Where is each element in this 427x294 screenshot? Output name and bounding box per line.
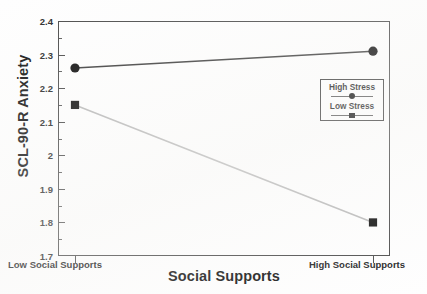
- x-axis-title: Social Supports: [58, 268, 390, 284]
- square-marker-icon: [349, 113, 355, 119]
- legend-sample-high-stress: [321, 92, 383, 101]
- y-tick-label-2.2: 2.2: [19, 83, 53, 94]
- legend-sample-low-stress: [321, 111, 383, 120]
- y-tick-label-1.9: 1.9: [19, 183, 53, 194]
- y-tick-label-2.3: 2.3: [19, 49, 53, 60]
- legend: High Stress Low Stress: [320, 79, 384, 121]
- circle-marker-icon: [349, 93, 355, 99]
- y-tick-label-2.1: 2.1: [19, 116, 53, 127]
- chart-figure: SCL-90-R Anxiety 2.4 2.3 2.2 2.1 2 1.9 1…: [0, 0, 427, 294]
- y-tick-label-2.4: 2.4: [19, 16, 53, 27]
- y-tick-label-2.0: 2: [19, 150, 53, 161]
- legend-label-low-stress: Low Stress: [321, 101, 383, 111]
- y-tick-label-1.8: 1.8: [19, 217, 53, 228]
- legend-entry-high-stress: High Stress: [321, 82, 383, 101]
- legend-label-high-stress: High Stress: [321, 82, 383, 92]
- legend-entry-low-stress: Low Stress: [321, 101, 383, 120]
- plot-frame: [58, 21, 390, 256]
